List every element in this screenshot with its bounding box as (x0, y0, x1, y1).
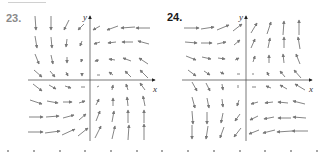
field-arrow (234, 128, 241, 137)
dot (33, 150, 35, 152)
field-arrow (220, 72, 224, 74)
field-arrow (280, 85, 287, 89)
field-arrow (127, 97, 128, 106)
field-arrow (35, 54, 39, 64)
field-arrow (206, 126, 208, 139)
field-arrow (93, 26, 100, 30)
field-arrow (51, 55, 53, 64)
field-arrow (65, 86, 71, 88)
field-arrow (123, 58, 131, 61)
field-arrow (107, 26, 118, 30)
field-arrow (78, 128, 88, 136)
field-arrow (206, 83, 210, 91)
field-arrow (192, 82, 197, 91)
field-arrow (128, 125, 129, 140)
field-arrow (138, 41, 149, 44)
field-arrow (296, 54, 300, 64)
field-arrow (220, 127, 224, 138)
field-arrow (298, 37, 300, 49)
field-arrow (202, 57, 211, 59)
field-arrow (222, 84, 223, 90)
field-arrow (295, 84, 305, 90)
field-arrow (109, 72, 113, 75)
field-arrow (201, 27, 214, 29)
field-arrow (95, 60, 99, 61)
dot (316, 150, 318, 152)
field-arrow (283, 21, 284, 35)
field-arrow (250, 116, 258, 120)
field-arrow (277, 131, 292, 132)
field-arrow (267, 22, 271, 34)
field-arrow (30, 100, 42, 104)
x-axis-label: x (308, 84, 313, 94)
field-arrow (265, 102, 273, 103)
dot (213, 150, 215, 152)
field-arrow (233, 24, 242, 31)
field-arrow (192, 97, 195, 108)
field-arrow (33, 84, 42, 91)
field-arrow (264, 117, 274, 119)
field-arrow (97, 86, 99, 87)
field-arrow (35, 36, 37, 48)
field-arrow (112, 85, 113, 90)
dot (7, 150, 9, 152)
field-arrow (95, 126, 101, 138)
field-arrow (267, 72, 269, 76)
dot (239, 150, 241, 152)
field-arrow (237, 100, 239, 106)
field-arrow (192, 111, 193, 124)
field-arrow (51, 37, 52, 48)
plot-23-axes: x y (28, 12, 157, 141)
field-arrow (263, 130, 275, 133)
y-axis-label: y (82, 12, 87, 22)
field-arrow (139, 58, 148, 64)
field-arrow (94, 42, 100, 44)
dot (187, 150, 189, 152)
field-arrow (108, 42, 116, 43)
dot (290, 150, 292, 152)
field-arrow (112, 111, 114, 122)
dot (110, 150, 112, 152)
field-arrow (79, 101, 85, 103)
field-arrow (125, 71, 131, 77)
dot (264, 150, 266, 152)
field-arrow (253, 56, 255, 62)
field-arrow (81, 59, 82, 62)
field-arrow (186, 56, 196, 60)
field-arrow (47, 101, 58, 103)
y-axis-label: y (238, 12, 243, 22)
field-arrow (251, 23, 257, 33)
field-arrow (188, 70, 196, 76)
field-arrow (207, 98, 209, 108)
field-arrow (293, 101, 305, 104)
field-arrow (251, 39, 255, 48)
field-arrow (235, 114, 240, 121)
dot (59, 150, 61, 152)
field-arrow (45, 131, 60, 133)
footer-dot-row (0, 150, 323, 156)
field-arrow (294, 70, 301, 78)
field-arrow (112, 126, 115, 139)
field-arrow (268, 38, 270, 48)
field-arrow (204, 71, 210, 75)
field-arrow (280, 71, 285, 77)
field-arrow (140, 70, 148, 78)
field-arrow (62, 129, 75, 135)
field-arrow (96, 99, 99, 105)
x-axis-label: x (152, 84, 157, 94)
field-arrow (140, 83, 145, 90)
field-arrow (121, 27, 135, 28)
field-arrow (34, 70, 42, 77)
plot-23-arrows (28, 16, 150, 140)
field-arrow (35, 16, 36, 30)
field-arrow (143, 96, 145, 106)
field-arrow (283, 54, 284, 63)
field-arrow (64, 20, 69, 30)
field-arrow (80, 41, 82, 46)
field-arrow (293, 117, 306, 118)
field-arrow (49, 85, 56, 89)
field-arrow (79, 114, 86, 120)
field-arrow (218, 58, 225, 59)
field-arrow (217, 42, 226, 44)
field-arrow (221, 113, 223, 123)
